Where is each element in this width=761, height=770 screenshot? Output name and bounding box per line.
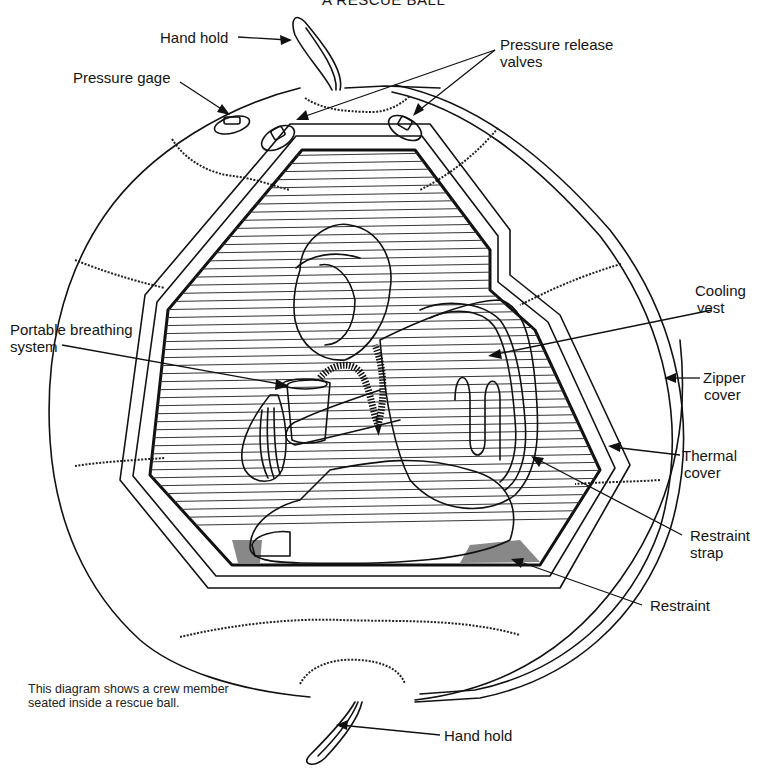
label-hand-hold-bottom: Hand hold	[444, 727, 512, 744]
pressure-release-valve-left	[257, 120, 298, 155]
label-pressure-release-valves-2: valves	[500, 53, 543, 70]
diagram-title: A RESCUE BALL	[322, 0, 445, 8]
label-pressure-release-valves-1: Pressure release	[500, 36, 613, 53]
label-restraint-strap-1: Restraint	[690, 527, 750, 544]
label-pressure-gage: Pressure gage	[73, 69, 171, 86]
label-thermal-cover-1: Thermal	[682, 447, 737, 464]
label-zipper-cover-1: Zipper	[703, 369, 746, 386]
label-hand-hold-top: Hand hold	[160, 29, 228, 46]
label-thermal-cover-2: cover	[684, 464, 721, 481]
top-hand-hold	[293, 18, 341, 90]
label-cooling-vest-2: vest	[697, 299, 725, 316]
label-portable-breathing-1: Portable breathing	[10, 321, 133, 338]
pressure-gage	[213, 113, 252, 138]
diagram-caption: This diagram shows a crew member seated …	[28, 682, 248, 710]
label-cooling-vest-1: Cooling	[695, 282, 746, 299]
label-restraint: Restraint	[650, 597, 710, 614]
bottom-hand-hold	[307, 702, 362, 764]
label-portable-breathing-2: system	[10, 338, 58, 355]
pressure-release-valve-right	[384, 110, 425, 145]
label-zipper-cover-2: cover	[704, 386, 741, 403]
rescue-ball-illustration	[0, 0, 761, 770]
label-restraint-strap-2: strap	[690, 544, 723, 561]
